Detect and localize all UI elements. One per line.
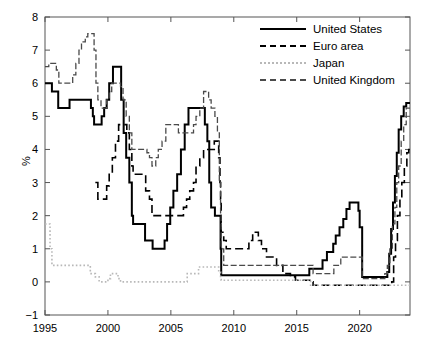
x-tick-label: 2000 xyxy=(96,322,120,334)
x-tick-label: 2005 xyxy=(159,322,183,334)
x-tick-label: 1995 xyxy=(33,322,57,334)
y-tick-label: 8 xyxy=(32,11,38,23)
y-tick-label: 2 xyxy=(32,210,38,222)
series-line xyxy=(45,67,410,277)
y-tick-label: 4 xyxy=(32,143,38,155)
legend-label: United States xyxy=(313,23,382,35)
legend-item-united-states: United States xyxy=(260,20,395,37)
legend-swatch-dotted-line-icon xyxy=(260,57,306,69)
y-tick-label: 0 xyxy=(32,276,38,288)
legend-label: Japan xyxy=(313,57,344,69)
x-tick-label: 2020 xyxy=(347,322,371,334)
y-tick-label: −1 xyxy=(25,309,38,321)
policy-rate-chart: −1012345678199520002005201020152020 % Un… xyxy=(0,0,425,355)
y-tick-label: 5 xyxy=(32,110,38,122)
legend-label: Euro area xyxy=(313,40,364,52)
chart-legend: United States Euro area Japan United Kin… xyxy=(258,18,397,90)
x-tick-label: 2010 xyxy=(222,322,246,334)
y-tick-label: 6 xyxy=(32,77,38,89)
legend-item-united-kingdom: United Kingdom xyxy=(260,71,395,88)
legend-swatch-dashed-line-icon xyxy=(260,40,306,52)
y-tick-label: 3 xyxy=(32,177,38,189)
y-axis-title: % xyxy=(20,141,32,181)
legend-label: United Kingdom xyxy=(313,74,395,86)
legend-swatch-solid-line-icon xyxy=(260,23,306,35)
legend-item-euro-area: Euro area xyxy=(260,37,395,54)
legend-swatch-dashdot-line-icon xyxy=(260,74,306,86)
x-tick-label: 2015 xyxy=(284,322,308,334)
y-tick-label: 1 xyxy=(32,243,38,255)
y-tick-label: 7 xyxy=(32,44,38,56)
legend-item-japan: Japan xyxy=(260,54,395,71)
